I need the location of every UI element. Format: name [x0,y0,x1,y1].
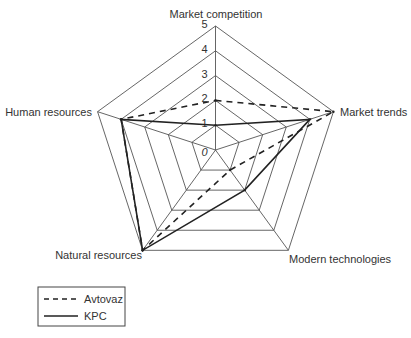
axis-spoke-natural-resources [143,150,216,250]
axis-spoke-human-resources [98,112,216,150]
axis-label-market-competition: Market competition [170,8,263,20]
tick-label-1: 1 [201,117,207,129]
axis-label-human-resources: Human resources [5,106,92,118]
legend: Avtovaz KPC [38,287,125,326]
radar-spokes [98,26,334,250]
data-point-avtovaz-2 [229,169,231,171]
axis-label-natural-resources: Natural resources [55,249,142,261]
legend-label-kpc: KPC [84,310,107,322]
data-point-kpc-0 [214,124,216,126]
data-point-avtovaz-0 [214,99,216,101]
axis-spoke-market-trends [216,112,334,150]
tick-label-0: 0 [201,146,208,158]
legend-label-avtovaz: Avtovaz [84,293,123,305]
tick-label-3: 3 [201,68,207,80]
radar-tick-labels: 0 1 2 3 4 5 [201,18,208,158]
data-point-kpc-1 [309,118,311,120]
data-point-avtovaz-1 [332,110,334,112]
axis-label-market-trends: Market trends [340,106,408,118]
series-avtovaz-line [121,100,333,250]
data-point-kpc-2 [243,189,245,191]
tick-label-4: 4 [201,43,207,55]
axis-label-modern-technologies: Modern technologies [289,253,392,265]
radar-chart: 0 1 2 3 4 5 Market competition Market tr… [0,0,411,338]
data-point-kpc-4 [120,118,122,120]
